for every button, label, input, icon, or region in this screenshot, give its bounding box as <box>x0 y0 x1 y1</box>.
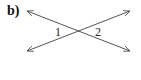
angle-1-label: 1 <box>55 25 61 39</box>
angle-2-label: 2 <box>95 25 101 39</box>
intersecting-lines-diagram: 1 2 <box>0 0 141 80</box>
